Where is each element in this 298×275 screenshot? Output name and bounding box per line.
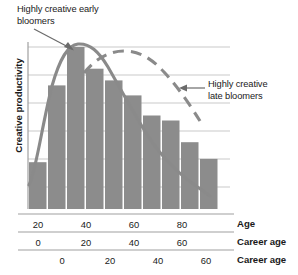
annotation-late-bloomers: Highly creative late bloomers: [208, 79, 298, 102]
tick-label: 80: [177, 219, 187, 230]
y-axis-label: Creative productivity: [13, 36, 24, 176]
chart-figure: Creative productivity Highly creative ea…: [0, 0, 298, 275]
tick-label: 40: [81, 219, 91, 230]
tick-label: 60: [177, 237, 187, 248]
bar: [105, 80, 123, 209]
tick-label: 0: [59, 255, 64, 266]
late-bloomers-arrow: [179, 85, 205, 92]
bar: [48, 85, 66, 209]
axis-name-career-age-2: Career age: [237, 254, 286, 265]
tick-label: 60: [129, 219, 139, 230]
tick-label: 0: [35, 237, 40, 248]
axis-name-age: Age: [237, 218, 255, 229]
bar: [29, 162, 47, 209]
bar: [67, 47, 85, 209]
tick-label: 20: [81, 237, 91, 248]
tick-label: 40: [129, 237, 139, 248]
tick-label: 20: [105, 255, 115, 266]
annotation-early-bloomers: Highly creative early bloomers: [17, 4, 147, 27]
tick-label: 40: [153, 255, 163, 266]
bar: [200, 159, 218, 209]
creative-productivity-chart: [0, 0, 298, 275]
tick-label: 60: [201, 255, 211, 266]
bar: [86, 69, 104, 209]
axis-name-career-age-1: Career age: [237, 236, 286, 247]
tick-label: 20: [33, 219, 43, 230]
